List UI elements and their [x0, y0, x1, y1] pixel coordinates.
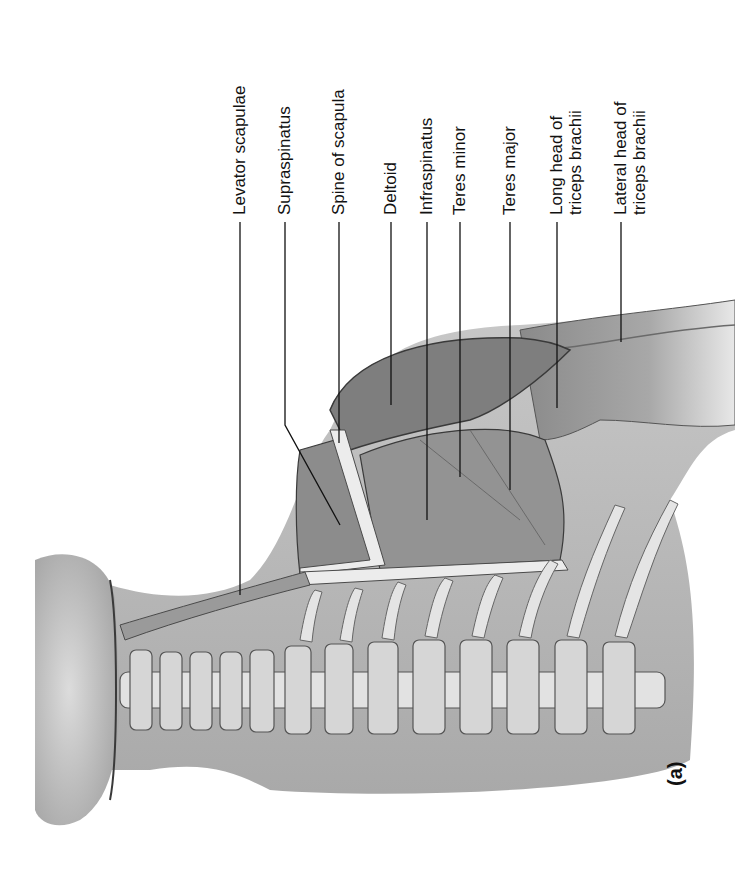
label-teres-minor: Teres minor — [450, 126, 469, 215]
panel-letter: (a) — [664, 762, 687, 786]
label-supraspinatus: Supraspinatus — [275, 106, 294, 215]
label-teres-major: Teres major — [500, 126, 519, 215]
shoulder-muscles — [296, 338, 570, 585]
label-infraspinatus: Infraspinatus — [417, 118, 436, 215]
skull — [35, 554, 120, 825]
label-spine-of-scapula: Spine of scapula — [329, 89, 348, 215]
upper-arm — [520, 300, 735, 440]
label-lateral-head-triceps: Lateral head of triceps brachii — [611, 102, 649, 215]
label-levator-scapulae: Levator scapulae — [230, 86, 249, 215]
label-long-head-triceps: Long head of triceps brachii — [547, 110, 585, 215]
label-deltoid: Deltoid — [381, 162, 400, 215]
